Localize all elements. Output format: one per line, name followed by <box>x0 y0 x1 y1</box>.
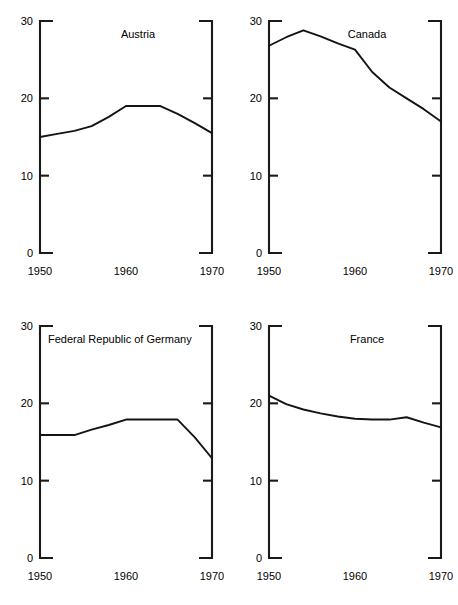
y-tick-label-30: 30 <box>21 15 33 27</box>
panel-title: Federal Republic of Germany <box>48 333 192 345</box>
chart-panel-canada: 0102030195019601970Canada <box>229 0 458 300</box>
y-tick-label-0: 0 <box>27 552 33 564</box>
x-tick-label-1970: 1970 <box>429 570 453 582</box>
x-tick-label-1950: 1950 <box>257 570 281 582</box>
data-series-line <box>269 30 441 121</box>
y-tick-label-10: 10 <box>21 475 33 487</box>
plot-area: 0102030195019601970France <box>229 305 458 605</box>
plot-area: 0102030195019601970Canada <box>229 0 458 300</box>
x-tick-label-1970: 1970 <box>200 570 224 582</box>
data-series-line <box>40 106 212 137</box>
chart-panel-austria: 0102030195019601970Austria <box>0 0 229 300</box>
plot-area: 0102030195019601970Federal Republic of G… <box>0 305 229 605</box>
y-tick-label-0: 0 <box>256 552 262 564</box>
x-tick-label-1950: 1950 <box>28 265 52 277</box>
panel-title: Canada <box>348 28 387 40</box>
chart-panel-france: 0102030195019601970France <box>229 305 458 605</box>
x-tick-label-1960: 1960 <box>343 570 367 582</box>
x-tick-label-1970: 1970 <box>200 265 224 277</box>
y-tick-label-0: 0 <box>27 247 33 259</box>
data-series-line <box>269 396 441 428</box>
x-tick-label-1970: 1970 <box>429 265 453 277</box>
chart-panel-federal-republic-of-germany: 0102030195019601970Federal Republic of G… <box>0 305 229 605</box>
x-tick-label-1950: 1950 <box>28 570 52 582</box>
y-tick-label-10: 10 <box>250 170 262 182</box>
plot-area: 0102030195019601970Austria <box>0 0 229 300</box>
figure-canvas: 0102030195019601970Austria01020301950196… <box>0 0 458 605</box>
y-axis-right <box>428 326 441 558</box>
y-tick-label-0: 0 <box>256 247 262 259</box>
y-tick-label-30: 30 <box>21 320 33 332</box>
y-tick-label-10: 10 <box>250 475 262 487</box>
y-tick-label-20: 20 <box>250 92 262 104</box>
y-tick-label-30: 30 <box>250 320 262 332</box>
y-axis-right <box>199 21 212 253</box>
y-tick-label-20: 20 <box>21 92 33 104</box>
x-tick-label-1960: 1960 <box>114 265 138 277</box>
y-tick-label-10: 10 <box>21 170 33 182</box>
x-tick-label-1960: 1960 <box>114 570 138 582</box>
y-tick-label-20: 20 <box>250 397 262 409</box>
x-tick-label-1950: 1950 <box>257 265 281 277</box>
y-axis-left <box>269 21 282 253</box>
y-tick-label-30: 30 <box>250 15 262 27</box>
x-tick-label-1960: 1960 <box>343 265 367 277</box>
y-axis-left <box>269 326 282 558</box>
y-tick-label-20: 20 <box>21 397 33 409</box>
panel-title: France <box>350 333 384 345</box>
panel-title: Austria <box>121 28 156 40</box>
data-series-line <box>40 420 212 459</box>
y-axis-right <box>428 21 441 253</box>
y-axis-left <box>40 326 53 558</box>
y-axis-right <box>199 326 212 558</box>
